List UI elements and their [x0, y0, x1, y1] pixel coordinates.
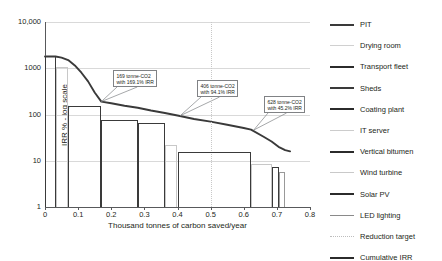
- x-tick-label: 0.6: [239, 211, 249, 219]
- bar-led-lighting: [279, 172, 286, 207]
- legend-swatch-icon: [330, 45, 354, 46]
- x-tick-mark: [78, 207, 79, 210]
- annotation-628-leader-0: [254, 113, 268, 130]
- annotation-406-leader-1: [180, 97, 219, 116]
- legend-item-coating-plant[interactable]: Coating plant: [330, 99, 442, 120]
- legend-item-vertical-bitumen[interactable]: Vertical bitumen: [330, 141, 442, 162]
- x-tick-mark: [178, 207, 179, 210]
- annotation-406-leader-0: [180, 97, 201, 116]
- y-tick-label: 10: [33, 157, 41, 165]
- legend-item-pit[interactable]: PIT: [330, 14, 442, 35]
- legend-label: Vertical bitumen: [360, 147, 413, 156]
- annotation-169-leader-0: [101, 87, 117, 102]
- annotation-406-line1: 406 tonne-CO2: [201, 83, 235, 89]
- legend-label: Transport fleet: [360, 62, 408, 71]
- legend-item-solar-pv[interactable]: Solar PV: [330, 184, 442, 205]
- legend-label: Reduction target: [360, 232, 415, 241]
- bar-solar-pv: [272, 167, 279, 207]
- x-tick-label: 0.2: [106, 211, 116, 219]
- legend-swatch-icon: [330, 257, 354, 259]
- y-tick-label: 10,000: [18, 18, 41, 26]
- bar-it-server: [165, 145, 178, 207]
- x-tick-mark: [310, 207, 311, 210]
- legend-label: Cumulative IRR: [360, 253, 413, 261]
- legend-item-sheds[interactable]: Sheds: [330, 78, 442, 99]
- x-tick-mark: [45, 207, 46, 210]
- legend-item-led-lighting[interactable]: LED lighting: [330, 205, 442, 226]
- bar-pit: [45, 56, 56, 207]
- x-tick-label: 0.3: [139, 211, 149, 219]
- annotation-169: 169 tonne-CO2with 169.1% IRR: [113, 70, 157, 87]
- x-tick-mark: [211, 207, 212, 210]
- chart-root: IRR % - log scale 110100100010,000 00.10…: [0, 0, 442, 261]
- legend-item-reduction-target[interactable]: Reduction target: [330, 226, 442, 247]
- legend-label: IT server: [360, 126, 389, 135]
- chart-legend: PITDrying roomTransport fleetShedsCoatin…: [330, 14, 442, 261]
- legend-label: Drying room: [360, 41, 401, 50]
- x-tick-label: 0: [43, 211, 47, 219]
- x-tick-mark: [111, 207, 112, 210]
- bar-sheds: [101, 120, 137, 207]
- legend-label: Wind turbine: [360, 168, 402, 177]
- legend-label: LED lighting: [360, 211, 400, 220]
- legend-label: Coating plant: [360, 105, 404, 114]
- legend-swatch-icon: [330, 24, 354, 26]
- annotation-406-line2: with 94.1% IRR: [201, 89, 235, 95]
- legend-item-cumulative-irr[interactable]: Cumulative IRR: [330, 247, 442, 261]
- legend-item-transport-fleet[interactable]: Transport fleet: [330, 56, 442, 77]
- bar-vertical-bitumen: [178, 152, 252, 207]
- bar-transport-fleet: [68, 106, 102, 207]
- legend-item-it-server[interactable]: IT server: [330, 120, 442, 141]
- annotation-628-line1: 628 tonne-CO2: [268, 99, 302, 105]
- plot-area: 110100100010,000 00.10.20.30.40.50.60.70…: [45, 22, 310, 207]
- annotation-169-line2: with 169.1% IRR: [117, 79, 154, 85]
- legend-swatch-icon: [330, 130, 354, 131]
- annotation-628-line2: with 45.2% IRR: [268, 105, 302, 111]
- annotation-169-leader-1: [101, 87, 137, 102]
- y-tick-label: 100: [28, 111, 41, 119]
- x-tick-label: 0.4: [172, 211, 182, 219]
- x-tick-mark: [244, 207, 245, 210]
- legend-label: Sheds: [360, 84, 381, 93]
- x-tick-label: 0.8: [305, 211, 315, 219]
- x-tick-mark: [277, 207, 278, 210]
- x-tick-label: 0.7: [272, 211, 282, 219]
- legend-swatch-icon: [330, 87, 354, 89]
- legend-swatch-icon: [330, 236, 354, 237]
- legend-swatch-icon: [330, 151, 354, 153]
- legend-swatch-icon: [330, 108, 354, 110]
- legend-swatch-icon: [330, 66, 354, 68]
- x-axis-title: Thousand tonnes of carbon saved/year: [45, 221, 310, 230]
- x-tick-label: 0.1: [73, 211, 83, 219]
- annotation-169-line1: 169 tonne-CO2: [117, 73, 154, 79]
- annotation-628: 628 tonne-CO2with 45.2% IRR: [264, 96, 305, 113]
- bar-drying-room: [56, 67, 68, 207]
- bar-wind-turbine: [251, 164, 272, 207]
- bar-coating-plant: [138, 123, 165, 207]
- x-tick-label: 0.5: [205, 211, 215, 219]
- annotation-628-leader-1: [254, 113, 287, 130]
- legend-swatch-icon: [330, 172, 354, 173]
- legend-item-wind-turbine[interactable]: Wind turbine: [330, 162, 442, 183]
- legend-swatch-icon: [330, 215, 354, 216]
- legend-label: Solar PV: [360, 190, 390, 199]
- y-tick-label: 1: [37, 203, 41, 211]
- annotation-406: 406 tonne-CO2with 94.1% IRR: [197, 80, 238, 97]
- x-tick-mark: [144, 207, 145, 210]
- legend-item-drying-room[interactable]: Drying room: [330, 35, 442, 56]
- legend-label: PIT: [360, 20, 372, 29]
- legend-swatch-icon: [330, 193, 354, 195]
- y-tick-label: 1000: [24, 65, 41, 73]
